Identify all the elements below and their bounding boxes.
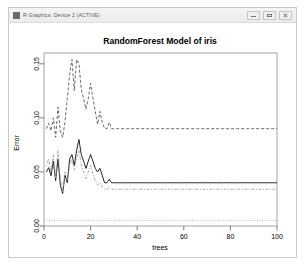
- window-title: R Graphics: Device 2 (ACTIVE): [23, 12, 247, 18]
- y-axis-label: Error: [13, 135, 20, 151]
- screen: R Graphics: Device 2 (ACTIVE) RandomFore…: [0, 0, 306, 268]
- plot-background: [9, 23, 296, 257]
- window-controls: [247, 11, 292, 20]
- y-tick-label: 0.10: [33, 111, 40, 125]
- y-tick-label: 0.05: [33, 165, 40, 179]
- minimize-button[interactable]: [247, 11, 260, 20]
- x-tick-label: 60: [180, 233, 188, 240]
- y-tick-label: 0.15: [33, 57, 40, 71]
- x-tick-label: 20: [87, 233, 95, 240]
- x-tick-label: 40: [133, 233, 141, 240]
- close-button[interactable]: [279, 11, 292, 20]
- plot-canvas: RandomForest Model of iris 020406080100 …: [9, 23, 296, 257]
- window-titlebar[interactable]: R Graphics: Device 2 (ACTIVE): [9, 8, 296, 23]
- r-app-icon: [13, 12, 20, 19]
- x-tick-label: 100: [271, 233, 283, 240]
- y-tick-label: 0.00: [33, 219, 40, 233]
- randomforest-error-plot: RandomForest Model of iris 020406080100 …: [9, 23, 296, 257]
- chart-title: RandomForest Model of iris: [103, 36, 217, 46]
- r-graphics-window: R Graphics: Device 2 (ACTIVE) RandomFore…: [8, 7, 297, 258]
- x-tick-label: 80: [227, 233, 235, 240]
- x-tick-label: 0: [42, 233, 46, 240]
- maximize-button[interactable]: [263, 11, 276, 20]
- x-axis-label: trees: [152, 244, 168, 251]
